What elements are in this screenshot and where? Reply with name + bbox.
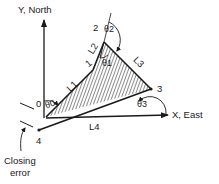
leg-label-l3: L3 (131, 54, 146, 69)
traverse-diagram: Y, North X, East 0 1 2 3 4 L1 L2 L3 L4 θ… (0, 0, 219, 184)
vertex-label-3: 3 (157, 83, 162, 94)
closing-error-pointer (21, 128, 25, 151)
traverse-area (46, 42, 151, 117)
closing-error-tick-bottom (20, 121, 33, 127)
vertex-label-0: 0 (36, 98, 41, 109)
x-axis (46, 115, 168, 118)
closing-error-label-line2: error (10, 167, 30, 178)
vertex-label-1: 1 (83, 57, 94, 69)
angle-label-theta3: θ3 (137, 99, 147, 109)
angle-label-theta2: θ2 (104, 24, 114, 34)
vertex-label-4: 4 (36, 135, 41, 146)
closing-error-label-line1: Closing (4, 155, 36, 166)
vertex-4-dot (37, 128, 40, 131)
x-axis-label: X, East (172, 109, 203, 120)
vertex-label-2: 2 (93, 22, 98, 33)
vertex-3-dot (149, 87, 152, 90)
y-axis-label: Y, North (18, 4, 52, 15)
angle-label-theta1: θ1 (102, 58, 112, 68)
leg-label-l4: L4 (89, 121, 100, 132)
leg-label-l2: L2 (85, 41, 100, 56)
closing-error-tick-top (20, 103, 34, 109)
